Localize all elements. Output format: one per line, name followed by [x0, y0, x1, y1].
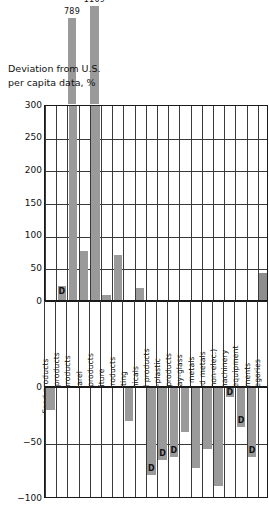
column-gridline — [202, 106, 203, 300]
column-gridline — [247, 106, 248, 300]
y-tick-label: −50 — [4, 438, 42, 447]
bar-petro-coal-products — [147, 388, 155, 475]
bar-paper-products — [114, 255, 122, 301]
column-gridline — [90, 388, 91, 497]
data-withheld-marker: D — [158, 449, 166, 458]
data-withheld-marker: D — [58, 287, 66, 296]
bar-all-categories — [259, 273, 267, 301]
y-tick-label: 0 — [4, 383, 42, 392]
data-withheld-marker: D — [147, 464, 155, 473]
bar-chemicals — [136, 288, 144, 301]
bar-machin-non-elec — [214, 388, 222, 486]
column-gridline — [191, 106, 192, 300]
bar-textile-products — [69, 106, 77, 301]
column-gridline — [157, 106, 158, 300]
column-gridline — [179, 106, 180, 300]
column-gridline — [123, 106, 124, 300]
y-tick-label: −100 — [4, 494, 42, 503]
column-gridline — [213, 106, 214, 300]
data-withheld-marker: D — [170, 446, 178, 455]
column-gridline — [56, 388, 57, 497]
y-axis-tick-labels: 3002502001501005000−50−100 — [0, 0, 42, 511]
column-gridline — [112, 388, 113, 497]
column-gridline — [45, 106, 46, 300]
value-gridline — [45, 444, 267, 445]
column-gridline — [224, 388, 225, 497]
plot-panel-upper: D — [44, 105, 268, 301]
y-tick-label: 250 — [4, 133, 42, 142]
bar-lumber-products — [91, 106, 99, 301]
y-tick-label: 150 — [4, 199, 42, 208]
column-gridline — [135, 388, 136, 497]
bar-fabricated-metals — [203, 388, 211, 449]
column-gridline — [101, 388, 102, 497]
column-gridline — [135, 106, 136, 300]
column-gridline — [258, 106, 259, 300]
category-label-cell: All Categories — [257, 301, 268, 387]
column-gridline — [235, 106, 236, 300]
data-withheld-marker: D — [248, 446, 256, 455]
column-gridline — [79, 388, 80, 497]
column-gridline — [146, 106, 147, 300]
category-axis-labels: Food productsTobacco productsTextile pro… — [44, 301, 268, 387]
bar-stone-clay-glass — [181, 388, 189, 432]
bar-printing — [125, 388, 133, 421]
bar-primary-metals — [192, 388, 200, 468]
y-tick-label: 100 — [4, 231, 42, 240]
value-gridline — [45, 269, 267, 270]
y-tick-label: 300 — [4, 101, 42, 110]
data-withheld-marker: D — [237, 416, 245, 425]
column-gridline — [101, 106, 102, 300]
y-tick-label: 200 — [4, 166, 42, 175]
column-gridline — [56, 106, 57, 300]
column-gridline — [67, 388, 68, 497]
bar-food-products — [46, 388, 54, 410]
column-gridline — [258, 388, 259, 497]
deviation-bar-chart: 7891109 Deviation from U.S. per capita d… — [0, 0, 269, 511]
offscale-value-label: 789 — [59, 7, 85, 16]
value-gridline — [45, 171, 267, 172]
offscale-bar-textile-products — [68, 18, 76, 104]
y-tick-label: 0 — [4, 297, 42, 306]
value-gridline — [45, 204, 267, 205]
y-tick-label: 50 — [4, 264, 42, 273]
column-gridline — [168, 106, 169, 300]
value-gridline — [45, 237, 267, 238]
value-gridline — [45, 139, 267, 140]
bar-apparel — [80, 251, 88, 301]
data-withheld-marker: D — [226, 388, 234, 397]
offscale-value-label: 1109 — [81, 0, 107, 4]
plot-panel-lower: DDDDDD — [44, 387, 268, 498]
column-gridline — [224, 106, 225, 300]
